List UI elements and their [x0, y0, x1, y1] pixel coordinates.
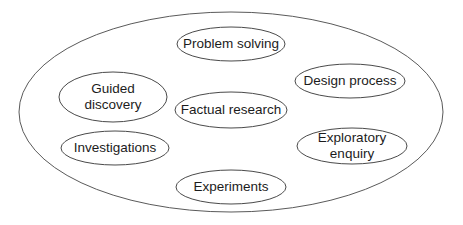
- node-ellipse-problem-solving: [177, 27, 285, 61]
- diagram-canvas: Problem solving Guided discovery Design …: [0, 0, 463, 225]
- node-ellipse-experiments: [176, 170, 286, 204]
- node-ellipse-guided-discovery: [59, 72, 167, 122]
- node-ellipse-factual-research: [175, 92, 287, 128]
- node-ellipse-design-process: [295, 64, 405, 98]
- diagram-svg: [0, 0, 463, 225]
- node-ellipse-investigations: [61, 131, 169, 165]
- node-ellipse-exploratory-enquiry: [297, 128, 407, 164]
